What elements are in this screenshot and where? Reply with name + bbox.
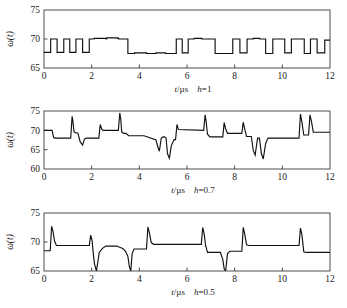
x-tick-label: 12 — [325, 71, 335, 81]
chart-svg-h05: 024681012657075ω(t)t/µsh=0.5 — [0, 205, 347, 305]
y-axis-label: ω(t) — [5, 132, 16, 148]
waveform-figure: 024681012657075ω(t)t/µsh=1 0246810126065… — [0, 0, 347, 308]
x-tick-label: 6 — [185, 71, 190, 81]
x-tick-label: 12 — [325, 172, 335, 182]
y-tick-label: 75 — [31, 5, 41, 15]
y-tick-label: 70 — [31, 126, 41, 136]
x-tick-label: 8 — [232, 274, 237, 284]
plot-frame — [44, 213, 330, 271]
y-tick-label: 65 — [31, 266, 41, 276]
y-tick-label: 75 — [31, 208, 41, 218]
waveform-trace — [44, 226, 330, 271]
x-tick-label: 2 — [89, 274, 94, 284]
y-tick-label: 75 — [31, 106, 41, 116]
plot-frame — [44, 10, 330, 68]
x-tick-label: 0 — [42, 274, 47, 284]
x-tick-label: 4 — [137, 71, 142, 81]
plot-frame — [44, 111, 330, 169]
y-axis-label: ω(t) — [5, 234, 16, 250]
x-tick-label: 10 — [278, 172, 288, 182]
y-tick-label: 60 — [31, 164, 41, 174]
x-tick-label: 6 — [185, 172, 190, 182]
x-axis-caption: t/µsh=0.7 — [171, 185, 215, 195]
chart-svg-h1: 024681012657075ω(t)t/µsh=1 — [0, 2, 347, 102]
y-tick-label: 70 — [31, 237, 41, 247]
x-tick-label: 6 — [185, 274, 190, 284]
x-tick-label: 4 — [137, 274, 142, 284]
x-tick-label: 12 — [325, 274, 335, 284]
x-axis-caption: t/µsh=1 — [175, 84, 212, 94]
waveform-trace — [44, 38, 330, 54]
waveform-trace — [44, 113, 330, 159]
x-tick-label: 8 — [232, 71, 237, 81]
x-tick-label: 8 — [232, 172, 237, 182]
y-axis-label: ω(t) — [5, 31, 16, 47]
x-tick-label: 2 — [89, 172, 94, 182]
y-tick-label: 65 — [31, 63, 41, 73]
x-tick-label: 4 — [137, 172, 142, 182]
x-tick-label: 0 — [42, 172, 47, 182]
x-tick-label: 10 — [278, 71, 288, 81]
y-tick-label: 70 — [31, 34, 41, 44]
chart-panel-h07: 02468101260657075ω(t)t/µsh=0.7 — [0, 103, 347, 203]
x-axis-caption: t/µsh=0.5 — [171, 287, 215, 297]
x-tick-label: 10 — [278, 274, 288, 284]
y-tick-label: 65 — [31, 145, 41, 155]
chart-panel-h1: 024681012657075ω(t)t/µsh=1 — [0, 2, 347, 102]
chart-svg-h07: 02468101260657075ω(t)t/µsh=0.7 — [0, 103, 347, 203]
x-tick-label: 2 — [89, 71, 94, 81]
chart-panel-h05: 024681012657075ω(t)t/µsh=0.5 — [0, 205, 347, 305]
x-tick-label: 0 — [42, 71, 47, 81]
